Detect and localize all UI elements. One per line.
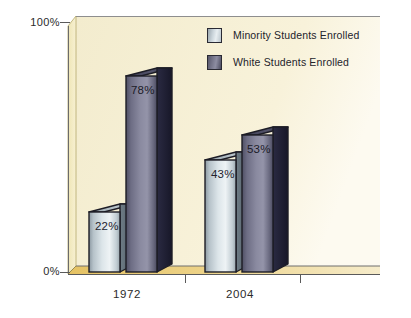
bar-value-label-2004-minority: 43%: [211, 168, 235, 180]
plot-left-wall: [68, 16, 76, 274]
legend-item-minority: Minority Students Enrolled: [207, 24, 359, 46]
bar-chart: 22% 78% 43% 53% 100% 0% 1972 2004 Minori…: [0, 0, 411, 318]
bar-front-face: [126, 76, 157, 272]
legend-item-label: White Students Enrolled: [233, 56, 349, 68]
bar-side-face: [157, 68, 172, 272]
legend-item-white: White Students Enrolled: [207, 51, 359, 73]
bar-1972-white: [126, 68, 172, 272]
x-axis-label-1972: 1972: [92, 288, 162, 300]
x-axis-label-2004: 2004: [205, 288, 275, 300]
y-axis-label-max: 100%: [14, 16, 60, 28]
bar-value-label-2004-white: 53%: [247, 143, 271, 155]
legend-item-label: Minority Students Enrolled: [233, 29, 359, 41]
bar-value-label-1972-minority: 22%: [95, 220, 119, 232]
chart-legend: Minority Students Enrolled White Student…: [207, 24, 359, 78]
y-axis-label-min: 0%: [14, 265, 60, 277]
legend-dark-swatch-icon: [207, 55, 222, 70]
bar-side-face: [273, 127, 288, 272]
legend-light-swatch-icon: [207, 28, 222, 43]
bar-front-face: [242, 135, 273, 272]
bar-value-label-1972-white: 78%: [131, 84, 155, 96]
